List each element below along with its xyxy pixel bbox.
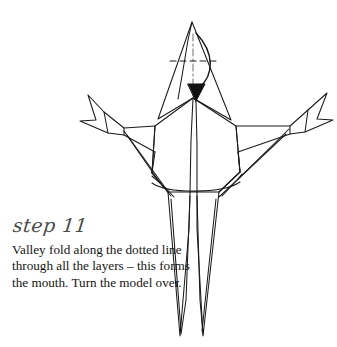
- crane-head-outline: [158, 22, 231, 120]
- origami-crane-diagram: [0, 0, 337, 347]
- instruction-text: Valley fold along the dotted line throug…: [12, 242, 192, 291]
- valley-fold-arrow: [188, 33, 210, 101]
- origami-instruction-page: step 11 Valley fold along the dotted lin…: [0, 0, 337, 347]
- step-heading: step 11: [12, 216, 194, 235]
- crane-right-wing: [219, 93, 333, 197]
- crane-body-outline: [152, 98, 240, 192]
- caption-block: step 11 Valley fold along the dotted lin…: [12, 216, 192, 291]
